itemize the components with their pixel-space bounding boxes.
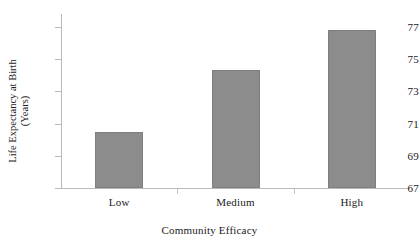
y-axis-tick-mark <box>55 27 61 28</box>
y-axis-tick-mark <box>55 91 61 92</box>
x-axis-title: Community Efficacy <box>0 224 419 236</box>
x-axis-tick-mark <box>177 189 178 194</box>
y-axis-tick-mark <box>55 59 61 60</box>
x-axis-tick-label: Low <box>61 197 177 208</box>
x-axis-line <box>61 188 410 189</box>
y-axis-tick-mark <box>55 188 61 189</box>
x-axis-tick-label: High <box>294 197 410 208</box>
y-axis-title: Life Expectancy at Birth (Years) <box>2 26 36 196</box>
y-axis-tick-mark <box>55 124 61 125</box>
bar-low[interactable] <box>95 132 143 188</box>
bar-medium[interactable] <box>212 70 260 188</box>
bar-high[interactable] <box>328 30 376 188</box>
y-axis-title-line-2: (Years) <box>19 96 31 126</box>
y-axis-tick-mark <box>55 156 61 157</box>
bar-chart-figure: Life Expectancy at Birth (Years) 6769717… <box>0 0 419 248</box>
y-axis-title-line-1: Life Expectancy at Birth <box>7 59 19 163</box>
x-axis-tick-label: Medium <box>177 197 293 208</box>
x-axis-tick-mark <box>294 189 295 194</box>
y-axis-line <box>61 14 62 189</box>
